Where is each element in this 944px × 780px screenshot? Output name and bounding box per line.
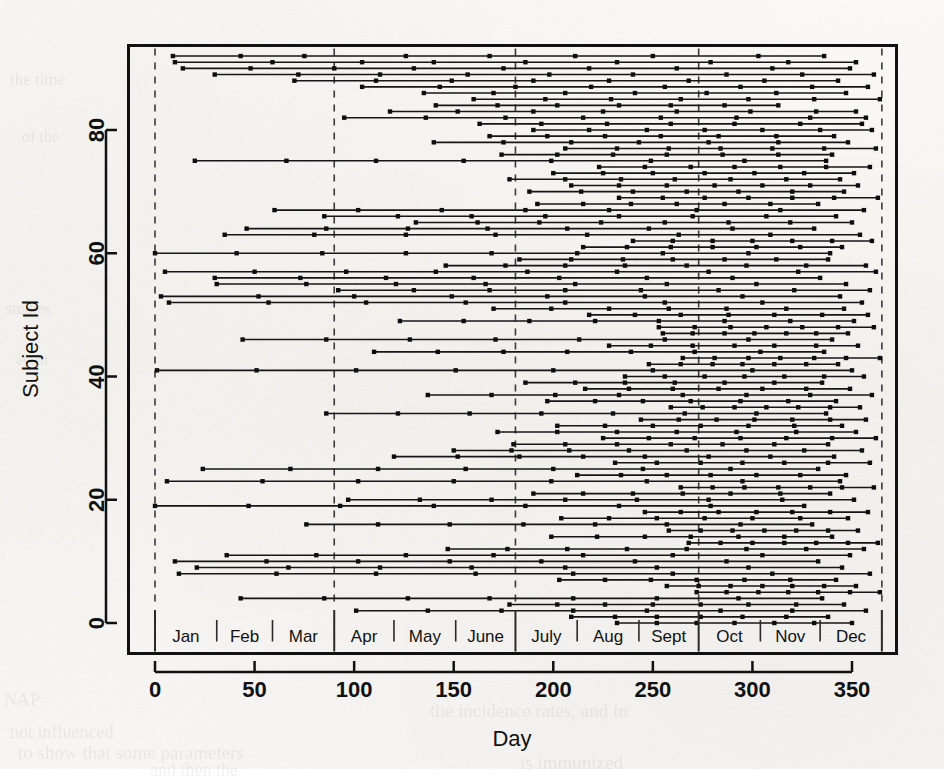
event-marker bbox=[264, 559, 268, 563]
event-marker bbox=[760, 584, 764, 588]
subject-timeline bbox=[531, 491, 832, 495]
event-marker bbox=[645, 479, 649, 483]
event-marker bbox=[702, 374, 706, 378]
event-marker bbox=[698, 461, 702, 465]
event-marker bbox=[876, 196, 880, 200]
event-marker bbox=[651, 602, 655, 606]
event-marker bbox=[772, 343, 776, 347]
event-marker bbox=[571, 608, 575, 612]
subject-timeline bbox=[643, 510, 870, 514]
event-marker bbox=[838, 479, 842, 483]
event-marker bbox=[384, 276, 388, 280]
event-marker bbox=[665, 152, 669, 156]
event-marker bbox=[846, 516, 850, 520]
event-marker bbox=[569, 615, 573, 619]
event-marker bbox=[848, 553, 852, 557]
event-marker bbox=[434, 270, 438, 274]
subject-timeline bbox=[687, 541, 881, 545]
event-marker bbox=[422, 91, 426, 95]
event-marker bbox=[830, 337, 834, 341]
subject-timeline bbox=[607, 343, 860, 347]
event-marker bbox=[531, 128, 535, 132]
event-marker bbox=[639, 288, 643, 292]
event-marker bbox=[774, 257, 778, 261]
event-marker bbox=[617, 214, 621, 218]
event-marker bbox=[374, 79, 378, 83]
event-marker bbox=[714, 417, 718, 421]
event-marker bbox=[609, 97, 613, 101]
event-marker bbox=[639, 417, 643, 421]
event-marker bbox=[679, 97, 683, 101]
event-marker bbox=[523, 380, 527, 384]
event-marker bbox=[730, 276, 734, 280]
event-marker bbox=[240, 337, 244, 341]
event-marker bbox=[312, 233, 316, 237]
event-marker bbox=[681, 393, 685, 397]
event-marker bbox=[846, 331, 850, 335]
x-axis-tick-label: 200 bbox=[535, 677, 572, 702]
event-marker bbox=[613, 461, 617, 465]
event-marker bbox=[856, 528, 860, 532]
event-marker bbox=[760, 387, 764, 391]
event-marker bbox=[651, 54, 655, 58]
event-marker bbox=[563, 263, 567, 267]
event-marker bbox=[790, 608, 794, 612]
event-marker bbox=[304, 522, 308, 526]
subject-timeline bbox=[324, 411, 828, 415]
event-marker bbox=[677, 233, 681, 237]
event-marker bbox=[201, 467, 205, 471]
event-marker bbox=[716, 510, 720, 514]
event-marker bbox=[543, 214, 547, 218]
event-marker bbox=[844, 356, 848, 360]
event-marker bbox=[661, 196, 665, 200]
event-marker bbox=[631, 72, 635, 76]
event-marker bbox=[394, 282, 398, 286]
event-marker bbox=[551, 467, 555, 471]
event-marker bbox=[788, 578, 792, 582]
event-marker bbox=[874, 146, 878, 150]
event-marker bbox=[475, 220, 479, 224]
subject-timeline bbox=[195, 565, 845, 569]
event-marker bbox=[545, 399, 549, 403]
event-marker bbox=[794, 528, 798, 532]
event-marker bbox=[527, 319, 531, 323]
subject-timeline bbox=[559, 516, 850, 520]
event-marker bbox=[872, 325, 876, 329]
event-marker bbox=[738, 399, 742, 403]
subject-timeline bbox=[569, 183, 860, 187]
event-marker bbox=[750, 368, 754, 372]
event-marker bbox=[858, 405, 862, 409]
event-marker bbox=[854, 430, 858, 434]
event-marker bbox=[344, 270, 348, 274]
event-marker bbox=[611, 411, 615, 415]
event-marker bbox=[633, 559, 637, 563]
subject-timeline bbox=[495, 430, 858, 434]
event-marker bbox=[523, 60, 527, 64]
event-marker bbox=[213, 72, 217, 76]
event-marker bbox=[752, 171, 756, 175]
event-marker bbox=[694, 590, 698, 594]
y-axis-tick-label: 40 bbox=[84, 364, 109, 388]
event-marker bbox=[629, 202, 633, 206]
subject-timeline bbox=[694, 590, 882, 594]
event-marker bbox=[856, 183, 860, 187]
event-marker bbox=[826, 257, 830, 261]
event-marker bbox=[844, 473, 848, 477]
event-marker bbox=[828, 251, 832, 255]
event-marker bbox=[535, 202, 539, 206]
event-marker bbox=[469, 214, 473, 218]
event-marker bbox=[808, 393, 812, 397]
subject-timeline bbox=[615, 621, 854, 625]
event-marker bbox=[750, 516, 754, 520]
event-marker bbox=[836, 79, 840, 83]
event-marker bbox=[563, 288, 567, 292]
event-marker bbox=[248, 66, 252, 70]
event-marker bbox=[631, 189, 635, 193]
event-marker bbox=[730, 226, 734, 230]
subject-timeline bbox=[681, 356, 883, 360]
event-marker bbox=[487, 596, 491, 600]
event-marker bbox=[436, 350, 440, 354]
subject-timeline bbox=[244, 226, 816, 230]
event-marker bbox=[563, 146, 567, 150]
event-marker bbox=[744, 393, 748, 397]
